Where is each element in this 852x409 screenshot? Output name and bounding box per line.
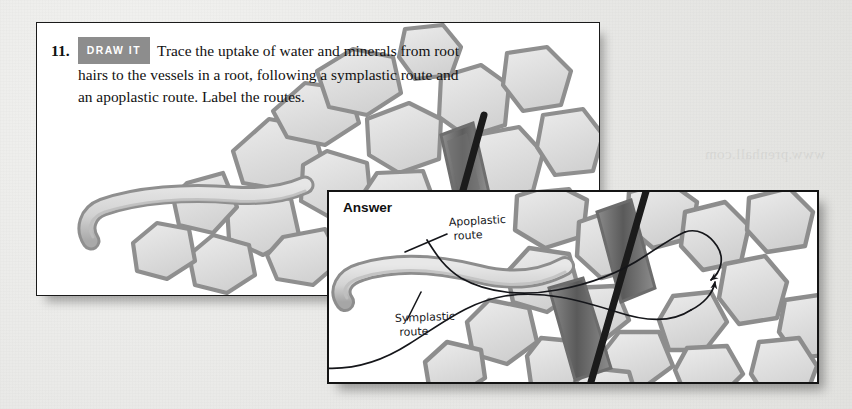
question-line-2: hairs to the vessels in a root, followin…	[51, 64, 583, 86]
answer-figure	[329, 192, 817, 382]
apoplastic-leader-line	[405, 234, 447, 252]
question-line-1: 11.DRAW ITTrace the uptake of water and …	[51, 37, 583, 64]
symplastic-leader-line	[407, 292, 421, 320]
question-line-1-text: Trace the uptake of water and minerals f…	[157, 42, 459, 59]
answer-label: Answer	[343, 200, 392, 215]
question-text-block: 11.DRAW ITTrace the uptake of water and …	[37, 23, 599, 107]
answer-panel: Answer Apoplastic route Symplastic route	[327, 190, 819, 384]
question-line-3: an apoplastic route. Label the routes.	[51, 86, 583, 108]
question-number: 11.	[51, 42, 70, 59]
draw-it-badge: DRAW IT	[78, 37, 150, 64]
